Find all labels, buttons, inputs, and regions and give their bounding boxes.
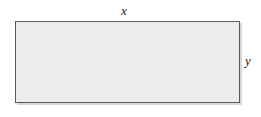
rectangle-figure: x y (0, 0, 261, 117)
rectangle-shape (15, 21, 240, 103)
height-label: y (245, 54, 251, 67)
width-label: x (121, 4, 127, 17)
